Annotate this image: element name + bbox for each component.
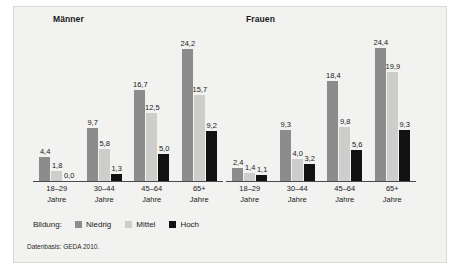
bar-rect [280, 130, 291, 181]
bar-value-label: 0,0 [64, 171, 74, 180]
bar-groups-maenner: 4,41,80,09,75,81,316,712,55,024,215,79,2 [33, 22, 223, 181]
x-tick-label: 30–44Jahre [275, 184, 319, 210]
plot-area-maenner: 4,41,80,09,75,81,316,712,55,024,215,79,2 [33, 22, 223, 182]
bar-niedrig: 4,4 [39, 22, 50, 181]
legend-label-hoch: Hoch [180, 220, 199, 229]
legend-swatch-mittel [125, 221, 132, 228]
bar-mittel: 19,9 [387, 22, 398, 181]
bar-rect [87, 128, 98, 181]
bar-value-label: 1,1 [257, 165, 267, 174]
x-tick-labels-frauen: 18–29Jahre30–44Jahre45–64Jahre65+Jahre [226, 184, 416, 210]
bar-group: 4,41,80,0 [35, 22, 79, 181]
x-tick-labels-maenner: 18–29Jahre30–44Jahre45–64Jahre65+Jahre [33, 184, 223, 210]
x-axis-line-maenner [33, 181, 223, 182]
bar-hoch: 9,3 [399, 22, 410, 181]
bar-rect [304, 164, 315, 181]
bar-niedrig: 18,4 [327, 22, 338, 181]
bar-rect [375, 48, 386, 181]
x-tick-label: 65+Jahre [370, 184, 414, 210]
legend-item-niedrig: Niedrig [75, 220, 111, 229]
bar-rect [351, 150, 362, 181]
legend-title: Bildung: [33, 220, 62, 229]
x-tick-label: 45–64Jahre [130, 184, 174, 210]
bar-rect [292, 159, 303, 181]
bar-rect [387, 72, 398, 181]
legend-swatch-hoch [169, 221, 176, 228]
bar-value-label: 4,4 [40, 147, 50, 156]
bar-rect [158, 154, 169, 181]
legend-item-mittel: Mittel [125, 220, 155, 229]
bar-value-label: 9,7 [87, 118, 97, 127]
bar-mittel: 4,0 [292, 22, 303, 181]
bar-hoch: 1,3 [111, 22, 122, 181]
legend-label-niedrig: Niedrig [86, 220, 111, 229]
bar-hoch: 9,2 [206, 22, 217, 181]
legend-swatch-niedrig [75, 221, 82, 228]
bar-niedrig: 24,4 [375, 22, 386, 181]
bar-rect [39, 157, 50, 181]
x-tick-label: 18–29Jahre [228, 184, 272, 210]
bar-value-label: 3,2 [304, 154, 314, 163]
source-note: Datenbasis: GEDA 2010. [27, 243, 99, 250]
bar-group: 9,75,81,3 [82, 22, 126, 181]
bar-mittel: 15,7 [194, 22, 205, 181]
bar-niedrig: 9,3 [280, 22, 291, 181]
bar-rect [182, 49, 193, 181]
bar-rect [146, 113, 157, 181]
bar-group: 16,712,55,0 [130, 22, 174, 181]
bar-value-label: 1,4 [245, 163, 255, 172]
chart-figure: Männer Frauen 4,41,80,09,75,81,316,712,5… [0, 0, 459, 274]
x-tick-label: 65+Jahre [177, 184, 221, 210]
bar-niedrig: 9,7 [87, 22, 98, 181]
bar-value-label: 5,0 [159, 144, 169, 153]
plot-area-frauen: 2,41,41,19,34,03,218,49,85,624,419,99,3 [226, 22, 416, 182]
bar-group: 18,49,85,6 [323, 22, 367, 181]
bar-rect [194, 95, 205, 181]
bar-group: 24,215,79,2 [177, 22, 221, 181]
bar-value-label: 5,8 [99, 139, 109, 148]
bar-group: 9,34,03,2 [275, 22, 319, 181]
x-tick-label: 18–29Jahre [35, 184, 79, 210]
bar-hoch: 1,1 [256, 22, 267, 181]
bar-mittel: 12,5 [146, 22, 157, 181]
bar-mittel: 5,8 [99, 22, 110, 181]
bar-mittel: 1,4 [244, 22, 255, 181]
bar-niedrig: 24,2 [182, 22, 193, 181]
bar-value-label: 9,3 [399, 120, 409, 129]
bar-value-label: 9,2 [206, 121, 216, 130]
bar-rect [51, 171, 62, 181]
bar-rect [99, 149, 110, 181]
bar-mittel: 9,8 [339, 22, 350, 181]
bar-value-label: 9,8 [340, 117, 350, 126]
legend: Bildung: Niedrig Mittel Hoch [33, 220, 213, 229]
bar-rect [327, 81, 338, 181]
bar-rect [399, 130, 410, 181]
bar-rect [134, 90, 145, 181]
bar-value-label: 1,8 [52, 161, 62, 170]
bar-group: 24,419,99,3 [370, 22, 414, 181]
bar-rect [244, 173, 255, 181]
bar-mittel: 1,8 [51, 22, 62, 181]
bar-value-label: 9,3 [280, 120, 290, 129]
bar-hoch: 0,0 [63, 22, 74, 181]
x-axis-line-frauen [226, 181, 416, 182]
bar-group: 2,41,41,1 [228, 22, 272, 181]
bar-groups-frauen: 2,41,41,19,34,03,218,49,85,624,419,99,3 [226, 22, 416, 181]
bar-value-label: 1,3 [111, 164, 121, 173]
legend-item-hoch: Hoch [169, 220, 199, 229]
bar-rect [111, 174, 122, 181]
legend-label-mittel: Mittel [136, 220, 155, 229]
bar-value-label: 5,6 [352, 140, 362, 149]
bar-value-label: 4,0 [292, 149, 302, 158]
bar-rect [339, 127, 350, 181]
bar-hoch: 5,0 [158, 22, 169, 181]
bar-niedrig: 2,4 [232, 22, 243, 181]
bar-value-label: 2,4 [233, 158, 243, 167]
x-tick-label: 30–44Jahre [82, 184, 126, 210]
x-tick-label: 45–64Jahre [323, 184, 367, 210]
bar-hoch: 3,2 [304, 22, 315, 181]
bar-rect [232, 168, 243, 181]
bar-hoch: 5,6 [351, 22, 362, 181]
bar-rect [206, 131, 217, 181]
bar-niedrig: 16,7 [134, 22, 145, 181]
